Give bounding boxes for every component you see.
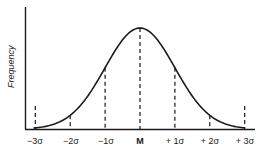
tick-label-minus-3sigma: −3σ <box>27 136 43 146</box>
bell-curve <box>34 28 245 128</box>
tick-label-minus-2sigma: −2σ <box>63 136 79 146</box>
sigma-dashed-lines <box>35 28 244 129</box>
normal-distribution-chart: Frequency −3σ −2σ −1σ M + 1σ + 2σ + 3σ <box>0 0 266 153</box>
x-tick-labels: −3σ −2σ −1σ M + 1σ + 2σ + 3σ <box>27 136 255 146</box>
y-axis-label: Frequency <box>6 45 16 88</box>
tick-label-plus-3sigma: + 3σ <box>236 136 255 146</box>
tick-label-plus-1sigma: + 1σ <box>166 136 185 146</box>
tick-label-mean: M <box>136 136 144 146</box>
tick-label-minus-1sigma: −1σ <box>98 136 114 146</box>
tick-label-plus-2sigma: + 2σ <box>201 136 220 146</box>
